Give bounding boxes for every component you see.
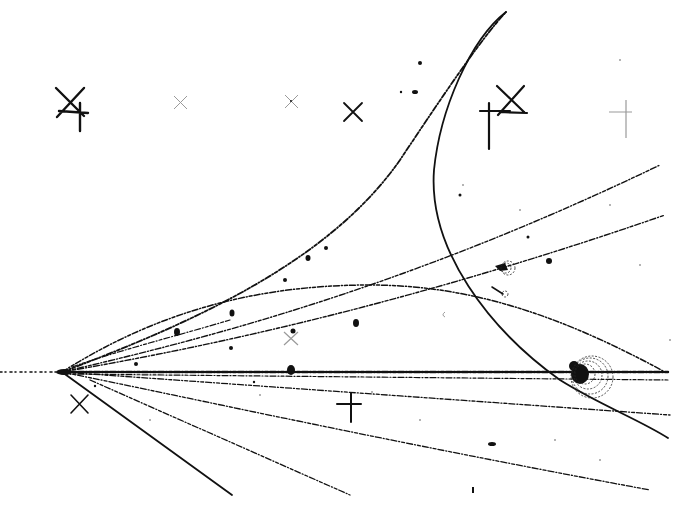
fiducial-x-icon (497, 86, 527, 115)
fiducial-x-icon (71, 395, 88, 413)
beam-track (0, 372, 670, 380)
track-blobs (94, 61, 552, 493)
fiducial-cross-icon (480, 103, 510, 149)
fiducial-x-faint-icon (284, 332, 298, 345)
fiducial-x-icon (344, 103, 362, 121)
fiducial-x-faint-icon (285, 95, 298, 108)
track-canvas (0, 0, 678, 509)
fiducial-cross-icon (337, 393, 361, 422)
vertex (56, 369, 72, 375)
speckle-noise (149, 59, 671, 461)
fiducial-x-cross-icon (56, 88, 88, 131)
small-spiral (443, 261, 515, 317)
bubble-chamber-photo (0, 0, 678, 509)
fiducial-x-faint-icon (174, 96, 187, 109)
fiducial-cross-faint-icon (609, 100, 632, 138)
spiral-region (569, 356, 613, 398)
